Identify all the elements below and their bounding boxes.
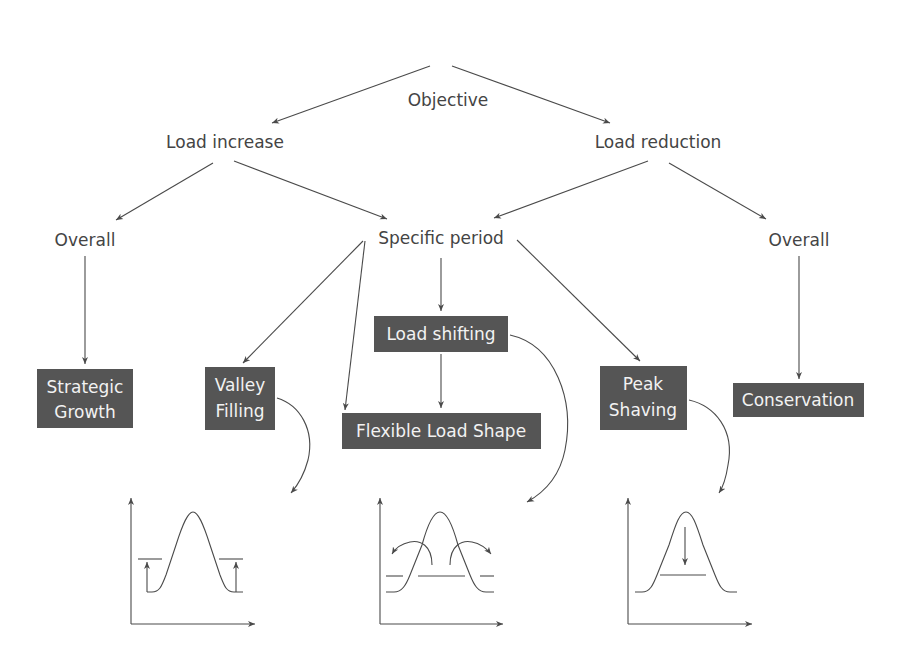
valley-filling-line2: Filling <box>216 401 265 421</box>
node-objective: Objective <box>408 90 489 110</box>
strategic-growth-line2: Growth <box>54 402 116 422</box>
load-shifting-plot <box>380 498 503 624</box>
objective-tree-diagram: Objective Load increase Load reduction O… <box>0 0 901 657</box>
load-shifting-box: Load shifting <box>374 316 508 352</box>
peak-shaving-line2: Shaving <box>609 400 677 420</box>
peak-shaving-curve-arrow <box>689 400 729 493</box>
valley-filling-line1: Valley <box>215 375 266 395</box>
valley-filling-curve-arrow <box>277 398 310 493</box>
flexible-load-shape-box: Flexible Load Shape <box>342 413 541 449</box>
peak-shaving-line1: Peak <box>623 374 664 394</box>
valley-filling-plot <box>131 498 255 624</box>
load-shifting-label: Load shifting <box>386 324 495 344</box>
node-load-increase: Load increase <box>166 132 284 152</box>
node-overall-increase: Overall <box>55 230 116 250</box>
conservation-label: Conservation <box>742 390 854 410</box>
node-load-reduction: Load reduction <box>595 132 722 152</box>
peak-shaving-box: Peak Shaving <box>600 366 687 430</box>
peak-shaving-plot <box>628 498 752 624</box>
strategic-growth-line1: Strategic <box>47 377 124 397</box>
node-specific-period: Specific period <box>378 228 504 248</box>
node-overall-reduction: Overall <box>769 230 830 250</box>
flexible-load-shape-label: Flexible Load Shape <box>356 421 526 441</box>
strategic-growth-box: Strategic Growth <box>37 369 133 428</box>
valley-filling-box: Valley Filling <box>205 367 275 430</box>
conservation-box: Conservation <box>733 383 864 417</box>
